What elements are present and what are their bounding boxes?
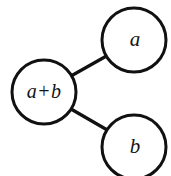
edge-sum-to-b xyxy=(71,109,109,131)
tree-diagram-svg: a+b a b xyxy=(0,0,171,176)
node-b-label: b xyxy=(130,134,141,158)
edge-sum-to-a xyxy=(71,54,110,76)
tree-diagram-canvas: a+b a b xyxy=(0,0,171,176)
node-a-label: a xyxy=(130,27,141,51)
node-b[interactable]: b xyxy=(102,115,166,176)
node-sum-label: a+b xyxy=(27,80,61,102)
node-a[interactable]: a xyxy=(102,8,166,72)
node-sum[interactable]: a+b xyxy=(12,60,76,124)
